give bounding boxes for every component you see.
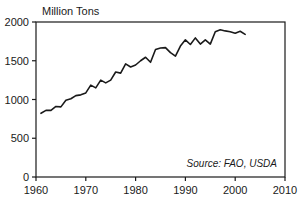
x-tick-label: 1980 [123,184,147,196]
y-tick-label: 1000 [5,94,29,106]
y-axis-caption: Million Tons [42,5,100,17]
y-tick-label: 2000 [5,16,29,28]
y-tick-label: 0 [23,171,29,183]
source-note: Source: FAO, USDA [187,158,278,169]
x-tick-label: 2000 [223,184,247,196]
x-tick-label: 1960 [24,184,48,196]
line-chart: Million Tons 0500100015002000 1960197019… [0,0,302,205]
chart-background [0,0,302,205]
x-tick-label: 1970 [74,184,98,196]
chart-container: Million Tons 0500100015002000 1960197019… [0,0,302,205]
y-tick-label: 500 [11,132,29,144]
y-tick-label: 1500 [5,55,29,67]
x-tick-label: 2010 [273,184,297,196]
x-tick-label: 1990 [173,184,197,196]
